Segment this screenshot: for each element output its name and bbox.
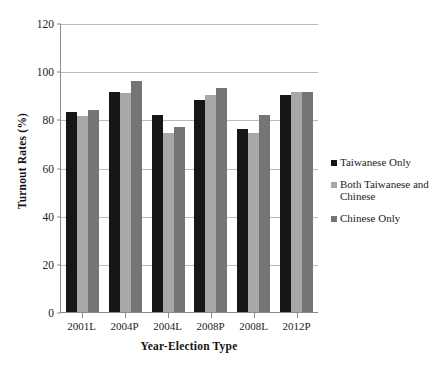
y-axis-title: Turnout Rates (%): [16, 61, 28, 261]
x-axis-tick-cell: [275, 313, 318, 318]
y-axis-tick-label: 0: [48, 307, 54, 319]
x-axis-tick-cell: [146, 313, 189, 318]
bar: [131, 81, 142, 312]
bar: [194, 100, 205, 312]
bar: [66, 112, 77, 312]
x-axis-tick-mark: [82, 313, 83, 318]
bar-group: [232, 24, 275, 312]
legend-label: Taiwanese Only: [340, 156, 411, 169]
x-axis-tick-mark: [168, 313, 169, 318]
bar: [120, 93, 131, 312]
legend-swatch-icon: [331, 160, 337, 166]
bar: [237, 129, 248, 312]
x-axis-tick-cell: [60, 313, 103, 318]
bar-group: [104, 24, 147, 312]
bar-group: [275, 24, 318, 312]
bar-group: [61, 24, 104, 312]
bar: [205, 95, 216, 312]
legend-label: Chinese Only: [340, 212, 400, 225]
legend-item: Taiwanese Only: [331, 156, 432, 169]
chart-legend: Taiwanese OnlyBoth Taiwanese and Chinese…: [331, 156, 432, 233]
y-axis-tick-label: 40: [43, 210, 55, 222]
bar: [163, 133, 174, 312]
y-axis-tick-label: 20: [43, 259, 55, 271]
legend-item: Both Taiwanese and Chinese: [331, 178, 432, 203]
legend-label: Both Taiwanese and Chinese: [340, 178, 432, 203]
x-axis-tick-mark: [125, 313, 126, 318]
bar: [280, 95, 291, 312]
x-axis-tick-label: 2004L: [146, 320, 189, 332]
x-axis-tick-cell: [103, 313, 146, 318]
bar-group: [189, 24, 232, 312]
bar: [174, 127, 185, 312]
bar: [302, 92, 313, 312]
y-axis-tick-label: 60: [43, 162, 55, 174]
bar: [152, 115, 163, 312]
bar: [248, 133, 259, 312]
bar: [77, 116, 88, 312]
bar: [259, 115, 270, 312]
x-axis-title: Year-Election Type: [60, 340, 318, 352]
x-axis-tick-mark: [297, 313, 298, 318]
y-axis-tick-label: 120: [37, 18, 54, 30]
bar-group: [147, 24, 190, 312]
y-axis-tick-label: 80: [43, 114, 55, 126]
x-axis-tick-labels: 2001L2004P2004L2008P2008L2012P: [60, 320, 318, 332]
x-axis-tick-mark: [254, 313, 255, 318]
bar: [291, 92, 302, 312]
bar: [216, 88, 227, 312]
bar-chart-figure: Turnout Rates (%) 020406080100120 2001L2…: [0, 0, 432, 373]
x-axis-tick-marks: [60, 313, 318, 318]
x-axis-tick-mark: [211, 313, 212, 318]
plot-area: 020406080100120: [60, 24, 318, 313]
x-axis-tick-label: 2008P: [189, 320, 232, 332]
x-axis-tick-label: 2004P: [103, 320, 146, 332]
x-axis-tick-cell: [232, 313, 275, 318]
legend-item: Chinese Only: [331, 212, 432, 225]
x-axis-tick-label: 2001L: [60, 320, 103, 332]
y-axis-tick-label: 100: [37, 66, 54, 78]
x-axis-tick-cell: [189, 313, 232, 318]
bar: [88, 110, 99, 312]
legend-swatch-icon: [331, 182, 337, 188]
x-axis-tick-label: 2012P: [275, 320, 318, 332]
bar-series-container: [61, 24, 318, 312]
bar: [109, 92, 120, 312]
x-axis-tick-label: 2008L: [232, 320, 275, 332]
legend-swatch-icon: [331, 216, 337, 222]
